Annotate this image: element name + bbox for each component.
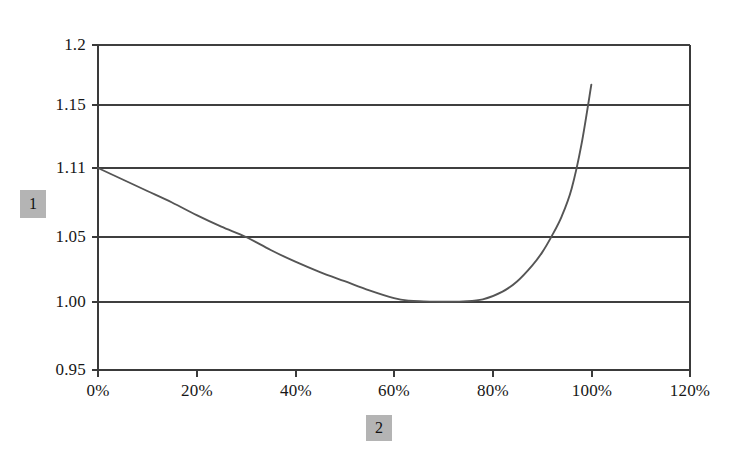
y-tick-label-1.00: 1.00 xyxy=(30,292,86,312)
x-tick-label-60: 60% xyxy=(378,381,410,401)
x-tick-label-80: 80% xyxy=(477,381,509,401)
y-tick-label-1.11: 1.11 xyxy=(30,158,86,178)
x-tick-label-120: 120% xyxy=(670,381,710,401)
y-tick-label-1.2: 1.2 xyxy=(38,35,86,55)
x-tick-label-0: 0% xyxy=(86,381,109,401)
data-series-curve xyxy=(98,85,591,302)
x-tick-label-20: 20% xyxy=(181,381,213,401)
gridlines xyxy=(98,45,690,302)
y-tick-label-0.95: 0.95 xyxy=(28,360,86,380)
chart-container: 1.2 1.15 1.11 1.05 1.00 0.95 0% 20% 40% … xyxy=(0,0,744,461)
x-tick-label-40: 40% xyxy=(280,381,312,401)
axis-lines xyxy=(98,45,690,370)
x-axis-title[interactable]: 2 xyxy=(366,415,392,441)
chart-plot-svg xyxy=(0,0,744,461)
x-tick-marks xyxy=(98,370,690,377)
y-axis-title[interactable]: 1 xyxy=(20,190,46,218)
y-tick-label-1.15: 1.15 xyxy=(30,95,86,115)
y-tick-label-1.05: 1.05 xyxy=(30,227,86,247)
x-tick-label-100: 100% xyxy=(572,381,612,401)
